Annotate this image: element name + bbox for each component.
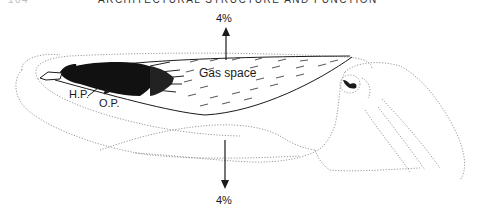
arrow-up-icon <box>222 27 230 60</box>
gas-space-label: Gas space <box>199 67 256 79</box>
eye-icon <box>343 80 357 89</box>
arrow-down-icon <box>221 140 229 189</box>
bottom-percent-label: 4% <box>216 195 232 206</box>
top-percent-label: 4% <box>216 13 232 24</box>
cuttlefish-diagram <box>0 0 477 216</box>
hp-label: H.P. <box>69 89 89 100</box>
op-label: O.P. <box>99 98 120 109</box>
siphuncle-tip <box>40 72 62 80</box>
